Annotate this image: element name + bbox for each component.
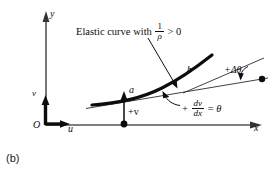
- v-axis-arrow: [42, 95, 50, 125]
- label-axis-v: v: [32, 89, 36, 98]
- x-axis: [46, 121, 262, 128]
- annotation-elastic-curve-prefix: Elastic curve with: [76, 26, 152, 37]
- leader-line-elastic-curve: [148, 38, 178, 89]
- label-axis-x: x: [254, 123, 258, 133]
- label-point-b: b: [187, 65, 192, 75]
- annotation-slope: + dv dx = θ: [182, 99, 221, 119]
- label-deflection-plus-v: +v: [128, 107, 139, 117]
- figure-caption: (b): [6, 152, 19, 164]
- label-axis-u: u: [68, 124, 73, 134]
- x-axis-reference-point: [121, 121, 128, 128]
- curvature-denominator: ρ: [155, 31, 164, 41]
- elastic-curve-figure: Elastic curve with 1 ρ > 0 + dv dx = θ +…: [0, 0, 275, 178]
- label-axis-y: y: [50, 9, 54, 19]
- annotation-elastic-curve-comparison: > 0: [168, 26, 182, 37]
- annotation-elastic-curve: Elastic curve with 1 ρ > 0: [76, 22, 181, 42]
- deflection-arrow: [121, 91, 128, 124]
- slope-plus-sign: +: [182, 103, 188, 114]
- slope-numerator: dv: [192, 99, 205, 108]
- u-axis-arrow: [45, 120, 70, 128]
- slope-theta-symbol: θ: [216, 103, 221, 114]
- label-origin: O: [33, 120, 40, 130]
- curvature-numerator: 1: [155, 22, 164, 31]
- slope-denominator: dx: [192, 108, 205, 118]
- slope-equals-sign: =: [208, 103, 214, 114]
- tangent-intersection-point: [259, 76, 265, 82]
- slope-fraction: dv dx: [192, 99, 205, 119]
- curvature-fraction: 1 ρ: [155, 22, 164, 42]
- label-delta-theta: +Δθ: [224, 65, 242, 75]
- label-point-a: a: [129, 85, 134, 95]
